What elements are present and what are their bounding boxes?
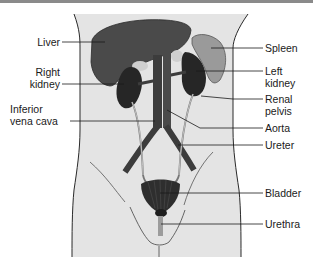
label-spleen: Spleen [265,42,298,54]
label-bladder: Bladder [265,187,301,199]
label-ureter: Ureter [265,139,294,151]
urethra-shape [158,216,163,236]
label-urethra: Urethra [265,218,300,230]
label-renal-pelvis: Renal pelvis [265,93,292,117]
urinary-system-diagram: Liver Right kidney Inferior vena cava Sp… [0,0,313,264]
inferior-vena-cava-shape [153,55,162,128]
label-liver: Liver [10,36,60,48]
label-right-kidney: Right kidney [10,66,60,90]
label-inferior-vena-cava: Inferior vena cava [10,103,70,127]
aorta-shape [163,50,171,128]
label-aorta: Aorta [265,122,290,134]
label-left-kidney: Left kidney [265,65,295,89]
